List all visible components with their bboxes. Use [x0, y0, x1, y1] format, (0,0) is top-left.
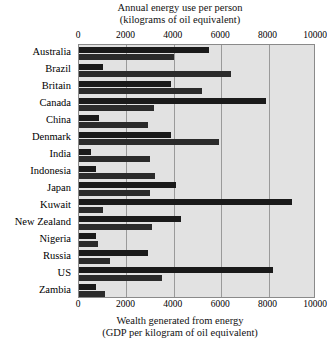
country-label: Britain: [42, 80, 71, 91]
country-label: New Zealand: [15, 216, 71, 227]
category-axis-labels: AustraliaBrazilBritainCanadaChinaDenmark…: [0, 44, 75, 298]
bar-energy-use: [79, 81, 171, 87]
top-axis-ticks: 0200040006000800010000: [78, 30, 315, 42]
country-label: Russia: [43, 250, 71, 261]
top-axis-title-line1: Annual energy use per person: [40, 2, 320, 14]
bar-wealth-generated: [79, 190, 150, 196]
bar-wealth-generated: [79, 105, 154, 111]
country-label: Kuwait: [40, 199, 71, 210]
country-label: Japan: [47, 182, 71, 193]
top-axis-title: Annual energy use per person (kilograms …: [40, 2, 320, 25]
bar-wealth-generated: [79, 88, 202, 94]
country-label: China: [46, 114, 71, 125]
bar-energy-use: [79, 233, 96, 239]
country-label: US: [58, 267, 71, 278]
bar-energy-use: [79, 284, 96, 290]
bar-energy-use: [79, 132, 171, 138]
country-label: Zambia: [39, 284, 71, 295]
bar-wealth-generated: [79, 139, 219, 145]
country-label: Australia: [33, 46, 72, 57]
bar-wealth-generated: [79, 224, 152, 230]
bar-energy-use: [79, 250, 148, 256]
bar-wealth-generated: [79, 275, 162, 281]
x-tick-label: 4000: [163, 30, 182, 40]
x-tick-label: 2000: [116, 299, 135, 309]
bar-chart: Annual energy use per person (kilograms …: [0, 0, 327, 344]
bar-wealth-generated: [79, 54, 174, 60]
bar-energy-use: [79, 64, 103, 70]
bar-wealth-generated: [79, 156, 150, 162]
x-tick-label: 6000: [211, 299, 230, 309]
bar-energy-use: [79, 149, 91, 155]
bottom-axis-ticks: 0200040006000800010000: [78, 299, 315, 311]
bar-wealth-generated: [79, 173, 155, 179]
x-tick-label: 2000: [116, 30, 135, 40]
bar-energy-use: [79, 199, 292, 205]
country-label: Denmark: [32, 131, 71, 142]
country-label: India: [49, 148, 71, 159]
country-label: Indonesia: [30, 165, 71, 176]
x-tick-label: 4000: [163, 299, 182, 309]
country-label: Canada: [40, 97, 72, 108]
bar-wealth-generated: [79, 71, 231, 77]
x-tick-label: 8000: [258, 299, 277, 309]
country-label: Brazil: [45, 63, 71, 74]
bar-wealth-generated: [79, 207, 103, 213]
bottom-axis-title-line1: Wealth generated from energy: [40, 315, 320, 327]
bottom-axis-title: Wealth generated from energy (GDP per ki…: [40, 315, 320, 338]
bar-energy-use: [79, 216, 181, 222]
country-label: Nigeria: [40, 233, 72, 244]
plot-area: [78, 44, 315, 298]
bar-wealth-generated: [79, 122, 148, 128]
gridline: [269, 45, 270, 297]
bar-energy-use: [79, 166, 96, 172]
bar-energy-use: [79, 182, 176, 188]
x-tick-label: 10000: [303, 30, 327, 40]
bar-energy-use: [79, 115, 99, 121]
gridline: [221, 45, 222, 297]
bar-wealth-generated: [79, 258, 110, 264]
x-tick-label: 0: [76, 30, 81, 40]
bar-wealth-generated: [79, 291, 105, 297]
gridline: [174, 45, 175, 297]
bar-energy-use: [79, 47, 209, 53]
x-tick-label: 6000: [211, 30, 230, 40]
x-tick-label: 8000: [258, 30, 277, 40]
bar-energy-use: [79, 98, 266, 104]
x-tick-label: 0: [76, 299, 81, 309]
bar-energy-use: [79, 267, 273, 273]
x-tick-label: 10000: [303, 299, 327, 309]
bottom-axis-title-line2: (GDP per kilogram of oil equivalent): [40, 327, 320, 339]
top-axis-title-line2: (kilograms of oil equivalent): [40, 14, 320, 26]
bar-wealth-generated: [79, 241, 98, 247]
